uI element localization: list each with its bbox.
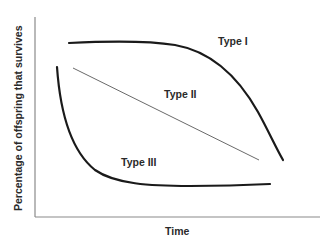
x-axis-label: Time [165, 225, 189, 237]
type-1-label: Type I [218, 35, 248, 47]
y-axis-label: Percentage of offspring that survives [12, 25, 24, 211]
type-1-curve [69, 42, 283, 160]
type-2-line [73, 68, 259, 160]
type-3-curve [57, 67, 270, 186]
type-2-label: Type II [164, 88, 196, 100]
type-3-label: Type III [121, 156, 156, 168]
survivorship-chart [0, 0, 335, 244]
